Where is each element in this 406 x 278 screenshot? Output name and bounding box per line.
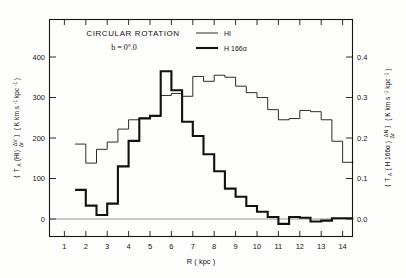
y-right-tick-label-0-0: 0.0 xyxy=(357,215,367,224)
y-right-close-bracket: ⟩ xyxy=(384,125,391,128)
y-left-symbol: T xyxy=(13,168,20,172)
y-left-ticks xyxy=(50,57,57,219)
y-left-tick-label-100: 100 xyxy=(32,174,45,183)
x-axis-title: R ( kpc ) xyxy=(187,257,216,266)
svg-text:⟨ T A: ⟨ T A (HI) ΔV Δr ⟩ ( K km s -1 kpc -1 ) xyxy=(11,78,24,178)
y-right-tick-label-0-4: 0.4 xyxy=(357,53,367,62)
series-line-h166a xyxy=(75,71,353,224)
x-tick-label-1: 1 xyxy=(62,242,66,251)
y-left-species: (HI) xyxy=(13,150,21,161)
y-right-tick-label-0-2: 0.2 xyxy=(357,134,367,143)
y-left-open-bracket: ⟨ xyxy=(13,175,20,178)
y-left-frac-numerator: ΔV xyxy=(12,139,18,147)
y-left-units-mid: kpc xyxy=(13,87,21,98)
axis-frame xyxy=(50,20,353,237)
y-left-units-exp2: -1 xyxy=(13,82,18,87)
y-left-tick-label-200: 200 xyxy=(32,134,45,143)
y-right-units-close: ) xyxy=(384,69,392,71)
y-right-axis-title: ⟨ T A ( H 166α ) ΔN Δr ⟩ ( K km s -1 kpc… xyxy=(382,69,395,188)
y-right-units-mid: kpc xyxy=(384,78,392,89)
y-right-units-exp1: -1 xyxy=(384,90,389,95)
x-tick-label-3: 3 xyxy=(105,242,109,251)
figure-container: 1234567891011121314 0100200300400 0.00.1… xyxy=(0,0,406,278)
x-tick-label-2: 2 xyxy=(84,242,88,251)
y-left-close-bracket: ⟩ xyxy=(13,134,20,137)
x-tick-label-8: 8 xyxy=(212,242,216,251)
y-left-units-close: ) xyxy=(13,78,21,80)
x-tick-label-12: 12 xyxy=(296,242,304,251)
x-bottom-ticks xyxy=(64,231,342,237)
x-tick-label-7: 7 xyxy=(191,242,195,251)
y-left-tick-labels: 0100200300400 xyxy=(32,53,45,224)
x-tick-label-5: 5 xyxy=(148,242,152,251)
y-left-units-exp1: -1 xyxy=(13,100,18,105)
x-tick-label-14: 14 xyxy=(338,242,346,251)
y-right-frac-denominator: Δr xyxy=(389,133,395,139)
x-tick-label-4: 4 xyxy=(127,242,131,251)
y-right-subscript: A xyxy=(388,172,393,176)
x-tick-label-11: 11 xyxy=(275,242,283,251)
y-left-tick-label-400: 400 xyxy=(32,53,45,62)
legend: HI H 166α xyxy=(196,30,247,52)
y-right-tick-label-0-3: 0.3 xyxy=(357,93,367,102)
legend-label-h166a: H 166α xyxy=(224,45,247,52)
chart-subtitle: b = 0°.0 xyxy=(111,43,137,52)
svg-text:⟨ T A: ⟨ T A ( H 166α ) ΔN Δr ⟩ ( K km s -1 kpc… xyxy=(382,69,395,188)
y-left-units: ( K km s xyxy=(13,105,21,130)
chart-canvas: 1234567891011121314 0100200300400 0.00.1… xyxy=(0,0,406,278)
y-right-units-exp2: -1 xyxy=(384,72,389,77)
y-right-tick-labels: 0.00.10.20.30.4 xyxy=(357,53,367,224)
x-tick-label-10: 10 xyxy=(253,242,261,251)
x-top-ticks xyxy=(64,20,342,26)
y-left-subscript: A xyxy=(17,163,22,167)
y-right-frac-numerator: ΔN xyxy=(383,130,389,138)
y-left-tick-label-300: 300 xyxy=(32,93,45,102)
y-right-units: ( K km s xyxy=(384,96,392,121)
chart-title: CIRCULAR ROTATION xyxy=(86,29,179,38)
legend-label-hi: HI xyxy=(224,30,231,37)
x-tick-label-9: 9 xyxy=(234,242,238,251)
y-left-tick-label-0: 0 xyxy=(41,215,45,224)
series-line-hi xyxy=(75,75,353,163)
y-right-species: ( H 166α ) xyxy=(384,141,392,170)
y-right-tick-label-0-1: 0.1 xyxy=(357,174,367,183)
y-right-ticks xyxy=(346,57,353,219)
y-left-frac-denominator: Δr xyxy=(18,142,24,148)
y-right-open-bracket: ⟨ xyxy=(384,184,391,187)
y-right-symbol: T xyxy=(384,178,391,182)
x-tick-label-6: 6 xyxy=(169,242,173,251)
x-tick-labels: 1234567891011121314 xyxy=(62,242,346,251)
y-left-axis-title: ⟨ T A (HI) ΔV Δr ⟩ ( K km s -1 kpc -1 ) xyxy=(11,78,24,178)
x-tick-label-13: 13 xyxy=(317,242,325,251)
